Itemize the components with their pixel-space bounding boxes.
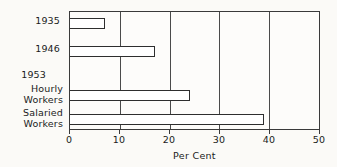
bar-1946 <box>70 46 155 57</box>
category-label-salaried-line2: Workers <box>0 119 63 130</box>
tick-label-10: 10 <box>106 135 132 145</box>
bar-hourly-workers <box>70 90 190 101</box>
category-label-1935-text: 1935 <box>35 15 60 26</box>
group-heading-1953-text: 1953 <box>21 69 46 80</box>
x-axis-title: Per Cent <box>0 150 337 161</box>
category-label-salaried-line1: Salaried <box>0 108 63 119</box>
x-axis-title-text: Per Cent <box>173 150 216 161</box>
bar-salaried-workers <box>70 114 264 125</box>
bar-chart-figure: 1935 1946 1953 Hourly Workers Salaried W… <box>0 0 337 167</box>
tick-label-40: 40 <box>256 135 282 145</box>
category-label-salaried-workers: Salaried Workers <box>0 108 63 129</box>
category-label-1935: 1935 <box>0 16 60 27</box>
tick-label-50: 50 <box>306 135 332 145</box>
gridline-10 <box>120 12 121 129</box>
gridline-30 <box>219 12 220 129</box>
tick-label-30: 30 <box>206 135 232 145</box>
tick-label-20: 20 <box>156 135 182 145</box>
category-label-hourly-workers: Hourly Workers <box>0 84 63 105</box>
category-label-1946: 1946 <box>0 44 60 55</box>
plot-area <box>69 11 320 130</box>
gridline-20 <box>170 12 171 129</box>
gridline-40 <box>269 12 270 129</box>
category-label-hourly-line1: Hourly <box>0 84 63 95</box>
category-label-1946-text: 1946 <box>35 43 60 54</box>
tick-label-0: 0 <box>56 135 82 145</box>
bar-1935 <box>70 18 105 29</box>
group-heading-1953: 1953 <box>0 70 46 81</box>
category-label-hourly-line2: Workers <box>0 95 63 106</box>
